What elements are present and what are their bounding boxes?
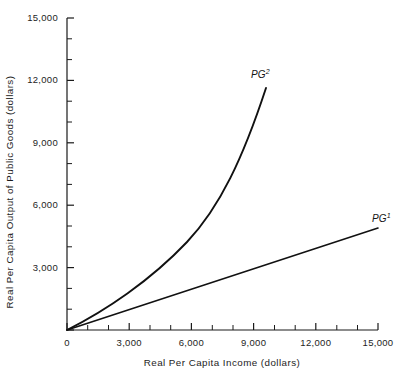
curve-label-pg1-superscript: 1 (387, 212, 391, 219)
x-tick-label-9000: 9,000 (241, 338, 266, 348)
x-tick-label-15000: 15,000 (363, 338, 394, 348)
x-tick-label-3000: 3,000 (117, 338, 142, 348)
curve-label-pg2-superscript: 2 (266, 68, 270, 75)
x-tick-label-0: 0 (64, 338, 70, 348)
chart-figure: 15,000 12,000 9,000 6,000 3,000 0 3,000 … (0, 0, 401, 377)
x-axis-major-ticks (67, 323, 378, 330)
y-axis-minor-ticks (67, 39, 72, 309)
x-axis-title: Real Per Capita Income (dollars) (144, 358, 301, 368)
y-axis-major-ticks (67, 18, 74, 330)
curve-label-pg2: PG2 (251, 70, 270, 80)
curve-label-pg2-text: PG (251, 69, 266, 80)
x-axis-minor-ticks (88, 325, 358, 330)
y-tick-label-15000: 15,000 (0, 13, 58, 23)
curve-label-pg1-text: PG (372, 213, 387, 224)
x-tick-label-12000: 12,000 (300, 338, 331, 348)
plot-area (0, 0, 401, 377)
y-axis-title: Real Per Capita Output of Public Goods (… (5, 76, 15, 309)
curve-pg2 (67, 88, 266, 330)
curve-label-pg1: PG1 (372, 214, 391, 224)
x-tick-label-6000: 6,000 (179, 338, 204, 348)
curve-pg1 (67, 228, 378, 330)
